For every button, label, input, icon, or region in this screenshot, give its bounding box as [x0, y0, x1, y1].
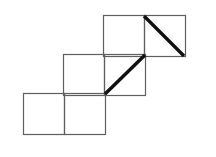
- figure-canvas: [0, 0, 216, 157]
- square-bottom-right: [65, 94, 106, 135]
- upper-diagonal: [144, 16, 184, 56]
- staircase-squares-figure: [0, 0, 216, 157]
- square-middle-left: [64, 55, 105, 96]
- square-top-left: [104, 16, 145, 57]
- middle-diagonal: [105, 55, 145, 94]
- square-bottom-left: [24, 94, 65, 135]
